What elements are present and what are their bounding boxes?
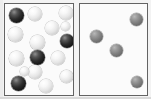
dark-sphere [30,50,45,65]
dark-sphere [11,76,26,91]
light-sphere [28,7,42,21]
right-panel [79,3,148,96]
light-sphere [20,67,29,76]
gray-sphere [130,13,143,26]
light-sphere [28,65,42,79]
gray-sphere [131,76,143,88]
light-sphere [39,79,53,93]
left-panel [4,3,74,96]
light-sphere [8,27,23,42]
dark-sphere [9,8,24,23]
light-sphere [9,51,24,66]
light-sphere [51,51,65,65]
light-sphere [30,35,45,50]
light-sphere [61,22,70,31]
gray-sphere [90,30,103,43]
gray-sphere [110,44,123,57]
light-sphere [59,6,73,20]
dark-sphere [60,34,74,48]
light-sphere [45,21,59,35]
figure-bottom-margin [0,97,151,99]
light-sphere [60,70,73,83]
figure-left-margin [0,0,3,99]
figure-container [0,0,151,99]
